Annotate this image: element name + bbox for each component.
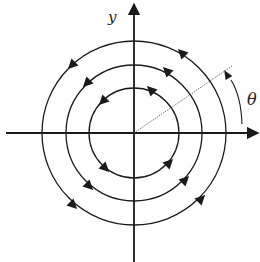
arrow-icon bbox=[79, 76, 93, 90]
direction-arrows bbox=[64, 45, 208, 212]
theta-label: θ bbox=[247, 90, 257, 109]
theta-arc bbox=[231, 80, 242, 124]
polar-flow-diagram: y θ bbox=[0, 0, 260, 262]
y-axis-label: y bbox=[107, 8, 117, 26]
arrow-icon bbox=[162, 155, 176, 169]
arrow-icon bbox=[82, 179, 96, 193]
arrow-icon bbox=[66, 198, 80, 212]
theta-arrowhead-icon bbox=[221, 68, 233, 80]
arrow-icon bbox=[194, 191, 208, 205]
angle-reference-line bbox=[134, 66, 232, 133]
arrow-icon bbox=[178, 172, 192, 186]
